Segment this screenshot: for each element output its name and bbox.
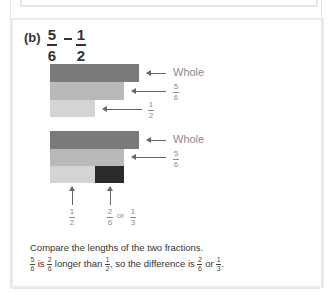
fraction: 12 <box>105 256 110 272</box>
label-bottom-one-half: 12 <box>69 208 75 227</box>
fraction: 56 <box>30 256 35 272</box>
arrow-left-icon <box>132 157 166 158</box>
bar-whole <box>50 64 139 82</box>
arrow-up-icon <box>110 187 111 205</box>
label-five-sixths-2: 56 <box>173 150 179 169</box>
label-whole-2: Whole <box>173 133 204 145</box>
fraction: 13 <box>216 256 221 272</box>
bar-one-half <box>50 100 95 117</box>
bar-whole-2 <box>50 131 139 149</box>
label-whole: Whole <box>173 66 204 78</box>
minus-sign <box>64 38 72 40</box>
arrow-left-icon <box>147 73 166 74</box>
arrow-up-icon <box>72 187 73 205</box>
label-one-third: 13 <box>130 208 136 227</box>
previous-panel-border <box>20 0 318 7</box>
label-two-sixths: 26 <box>107 208 113 227</box>
bar-five-sixths <box>50 82 124 100</box>
arrow-left-icon <box>147 140 166 141</box>
label-one-half: 12 <box>148 101 154 120</box>
expression-right-fraction: 1 2 <box>76 27 86 63</box>
fraction: 26 <box>197 256 202 272</box>
caption-line-1: Compare the lengths of the two fractions… <box>30 242 203 253</box>
arrow-left-icon <box>103 109 142 110</box>
bar-one-half-2 <box>50 166 95 183</box>
label-or: or <box>117 211 124 220</box>
fraction: 26 <box>47 256 52 272</box>
arrow-left-icon <box>132 91 166 92</box>
bar-difference <box>95 166 124 183</box>
expression-left-fraction: 5 6 <box>47 27 57 63</box>
part-label: (b) <box>24 30 41 45</box>
label-five-sixths: 56 <box>173 83 179 102</box>
bar-five-sixths-2 <box>50 149 124 166</box>
caption-line-2: 56 is 26 longer than 12, so the differen… <box>30 256 224 272</box>
